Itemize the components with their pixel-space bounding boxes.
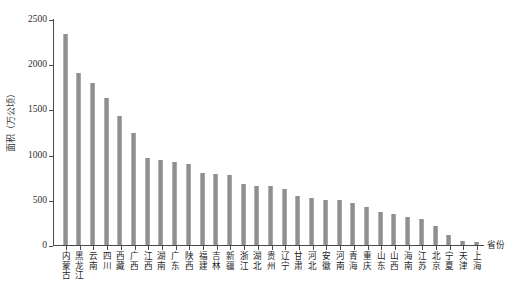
x-tick-mark — [477, 246, 478, 250]
y-axis-title-text: 面积（万公顷） — [4, 89, 17, 152]
bar — [241, 184, 246, 245]
x-tick-label: 山东 — [376, 252, 387, 271]
x-tick-label: 江苏 — [417, 252, 428, 271]
x-tick-mark — [285, 246, 286, 250]
bar — [172, 162, 177, 245]
x-tick-label: 陕西 — [184, 252, 195, 271]
x-tick-mark — [189, 246, 190, 250]
bar — [90, 83, 95, 245]
x-axis-title: 省份 — [487, 238, 505, 250]
x-tick-mark — [409, 246, 410, 250]
x-tick-label: 天津 — [458, 252, 469, 271]
bar — [378, 212, 383, 245]
bar-chart: 面积（万公顷） 05001000150020002500 内蒙古黑龙江云南四川西… — [0, 0, 506, 291]
x-tick-mark — [340, 246, 341, 250]
x-tick-label: 湖北 — [252, 252, 263, 271]
bar — [131, 133, 136, 245]
x-tick-mark — [422, 246, 423, 250]
plot-area: 05001000150020002500 — [53, 19, 484, 246]
x-tick-label: 北京 — [431, 252, 442, 271]
x-tick-mark — [203, 246, 204, 250]
x-tick-mark — [381, 246, 382, 250]
x-tick-label: 广东 — [170, 252, 181, 271]
x-tick-label: 安徽 — [321, 252, 332, 271]
x-tick-mark — [354, 246, 355, 250]
x-tick-label: 河北 — [307, 252, 318, 271]
x-tick-mark — [436, 246, 437, 250]
x-tick-mark — [176, 246, 177, 250]
x-tick-mark — [313, 246, 314, 250]
bar — [282, 189, 287, 245]
x-tick-label: 西藏 — [115, 252, 126, 271]
x-tick-mark — [107, 246, 108, 250]
x-tick-mark — [80, 246, 81, 250]
bar — [405, 217, 410, 245]
x-tick-mark — [244, 246, 245, 250]
x-tick-mark — [258, 246, 259, 250]
x-tick-label: 海南 — [403, 252, 414, 271]
x-tick-mark — [66, 246, 67, 250]
x-tick-label: 浙江 — [239, 252, 250, 271]
x-tick-label: 上海 — [472, 252, 483, 271]
x-tick-mark — [395, 246, 396, 250]
x-tick-mark — [463, 246, 464, 250]
bar — [76, 73, 81, 245]
x-tick-mark — [135, 246, 136, 250]
bar — [460, 241, 465, 246]
x-tick-label: 江西 — [143, 252, 154, 271]
bar — [433, 226, 438, 245]
bar — [337, 200, 342, 245]
bar — [104, 98, 109, 245]
bars-layer — [53, 19, 484, 245]
x-tick-mark — [326, 246, 327, 250]
x-tick-label: 湖南 — [156, 252, 167, 271]
x-tick-label: 吉林 — [211, 252, 222, 271]
x-tick-label: 宁夏 — [444, 252, 455, 271]
x-tick-mark — [299, 246, 300, 250]
bar — [295, 196, 300, 245]
x-tick-label: 四川 — [102, 252, 113, 271]
bar — [309, 198, 314, 245]
x-tick-mark — [368, 246, 369, 250]
x-tick-mark — [148, 246, 149, 250]
x-tick-label: 河南 — [335, 252, 346, 271]
x-tick-mark — [272, 246, 273, 250]
bar — [323, 200, 328, 245]
x-tick-mark — [121, 246, 122, 250]
bar — [350, 203, 355, 245]
x-tick-label: 青海 — [348, 252, 359, 271]
bar — [391, 214, 396, 246]
y-tick-label: 2000 — [28, 60, 47, 70]
bar — [186, 164, 191, 245]
y-tick-label: 1000 — [28, 151, 47, 161]
bar — [419, 219, 424, 245]
x-axis-labels: 内蒙古黑龙江云南四川西藏广西江西湖南广东陕西福建吉林新疆浙江湖北贵州辽宁甘肃河北… — [53, 252, 484, 291]
bar — [254, 186, 259, 245]
x-tick-label: 山西 — [389, 252, 400, 271]
x-tick-mark — [162, 246, 163, 250]
bar — [117, 116, 122, 245]
x-tick-label: 广西 — [129, 252, 140, 271]
bar — [158, 160, 163, 245]
x-tick-mark — [450, 246, 451, 250]
x-tick-label: 贵州 — [266, 252, 277, 271]
y-tick-label: 0 — [42, 241, 47, 251]
y-tick-mark — [49, 246, 53, 247]
x-tick-mark — [93, 246, 94, 250]
bar — [145, 158, 150, 245]
x-tick-label: 重庆 — [362, 252, 373, 271]
x-tick-label: 甘肃 — [293, 252, 304, 271]
y-tick-label: 1500 — [28, 106, 47, 116]
bar — [213, 174, 218, 245]
x-tick-label: 福建 — [198, 252, 209, 271]
y-tick-label: 2500 — [28, 15, 47, 25]
bar — [227, 175, 232, 245]
x-tick-mark — [217, 246, 218, 250]
x-tick-mark — [230, 246, 231, 250]
x-tick-label: 内蒙古 — [61, 252, 72, 281]
bar — [63, 34, 68, 245]
x-axis-line — [53, 245, 484, 246]
y-axis-title: 面积（万公顷） — [2, 0, 18, 240]
x-tick-label: 黑龙江 — [74, 252, 85, 281]
x-tick-label: 辽宁 — [280, 252, 291, 271]
